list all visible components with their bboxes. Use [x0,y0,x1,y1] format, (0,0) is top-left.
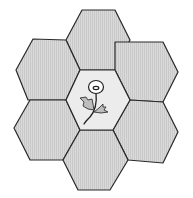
flower-center [93,86,99,89]
hexagon-diagram [0,0,193,198]
